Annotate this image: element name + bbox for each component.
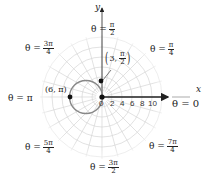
point-3-pi-over-2 [99,79,104,84]
angle-label-7pi-over-4: θ = 7π4 [149,139,178,154]
tick-0: 0 [99,99,103,108]
tick-2: 2 [110,99,114,108]
point-6-pi [68,95,73,100]
tick-10: 10 [148,99,157,108]
x-axis-label: x [196,84,201,94]
angle-label-3pi-over-2: θ = 3π2 [90,160,119,175]
point-label-3-pi-over-2: ( 3, π2 ) [104,50,131,66]
angle-label-zero: θ = 0 [172,99,199,108]
angle-label-pi-over-2: θ = π2 [91,22,115,37]
angle-label-pi-over-4: θ = π4 [150,42,174,57]
y-axis-label: y [95,2,100,12]
tick-4: 4 [120,99,124,108]
tick-8: 8 [140,99,144,108]
angle-label-pi: θ = π [8,94,33,103]
point-label-6-pi: (6, π) [45,85,67,94]
tick-6: 6 [130,99,134,108]
angle-label-3pi-over-4: θ = 3π4 [25,41,54,56]
angle-label-5pi-over-4: θ = 5π4 [25,140,54,155]
